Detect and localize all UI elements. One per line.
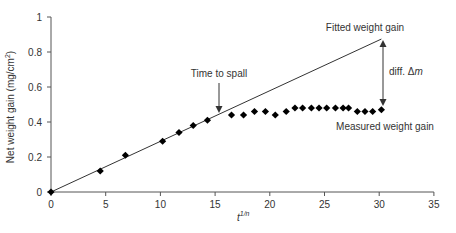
data-point-diamond	[272, 111, 279, 118]
y-axis-title-end: )	[5, 51, 16, 54]
data-point-diamond	[291, 104, 298, 111]
data-point-diamond	[378, 106, 385, 113]
x-tick-label: 25	[319, 199, 331, 210]
data-point-diamond	[240, 111, 247, 118]
x-axis-title: t1/n	[237, 210, 250, 223]
data-point-diamond	[47, 188, 54, 195]
measured-weight-gain-label: Measured weight gain	[336, 121, 434, 132]
data-point-diamond	[332, 104, 339, 111]
time-to-spall-label: Time to spall	[191, 68, 247, 79]
y-axis-title-main: Net weight gain (mg/cm	[5, 58, 16, 163]
x-tick-label: 0	[48, 199, 54, 210]
y-tick-label: 0	[36, 187, 42, 198]
fitted-weight-gain-label: Fitted weight gain	[326, 22, 404, 33]
y-tick-label: 0.8	[28, 47, 42, 58]
m-symbol: m	[414, 66, 422, 77]
data-point-diamond	[175, 129, 182, 136]
data-point-diamond	[190, 122, 197, 129]
data-point-diamond	[262, 108, 269, 115]
x-tick-label: 10	[155, 199, 167, 210]
time-to-spall-arrow	[216, 83, 223, 113]
data-point-diamond	[308, 104, 315, 111]
diff-delta-m-label: diff. Δm	[389, 66, 423, 77]
x-tick-label: 30	[374, 199, 386, 210]
data-point-diamond	[283, 108, 290, 115]
x-axis-title-sup: 1/n	[240, 210, 250, 217]
data-point-diamond	[228, 111, 235, 118]
data-point-diamond	[204, 117, 211, 124]
x-tick-label: 5	[103, 199, 109, 210]
diff-double-arrow	[380, 40, 387, 106]
y-axis-title: Net weight gain (mg/cm2)	[4, 51, 16, 163]
x-tick-label: 35	[428, 199, 440, 210]
data-point-diamond	[345, 104, 352, 111]
data-point-diamond	[323, 104, 330, 111]
y-tick-label: 0.2	[28, 152, 42, 163]
data-point-diamond	[369, 108, 376, 115]
data-point-diamond	[361, 108, 368, 115]
data-point-diamond	[354, 108, 361, 115]
y-tick-label: 0.4	[28, 117, 42, 128]
y-tick-label: 0.6	[28, 82, 42, 93]
measured-points	[47, 104, 385, 195]
data-point-diamond	[251, 108, 258, 115]
data-point-diamond	[122, 152, 129, 159]
diff-prefix: diff.	[389, 66, 408, 77]
weight-gain-chart: 00.20.40.60.8105101520253035 Fitted weig…	[0, 0, 456, 233]
x-tick-label: 20	[264, 199, 276, 210]
x-tick-label: 15	[210, 199, 222, 210]
data-point-diamond	[315, 104, 322, 111]
data-point-diamond	[299, 104, 306, 111]
axes: 00.20.40.60.8105101520253035	[28, 12, 440, 211]
y-tick-label: 1	[36, 12, 42, 23]
